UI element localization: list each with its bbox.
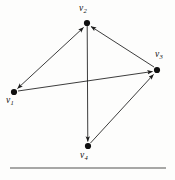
edge-v1-v3: [18, 72, 153, 92]
vertex-dot-v1: [11, 89, 17, 95]
vertex-label-v1: v1: [6, 96, 14, 106]
vertex-label-v4: v4: [80, 151, 88, 161]
edge-v3-v2: [91, 27, 154, 68]
vertex-dot-v4: [85, 143, 91, 149]
edge-v2-v4: [87, 26, 88, 142]
edge-v1-v2: [18, 28, 84, 89]
graph-figure: v1 v2 v3 v4: [0, 0, 175, 180]
edge-v4-v3: [91, 75, 154, 144]
vertex-dot-v2: [84, 20, 90, 26]
vertex-dot-v3: [154, 67, 160, 73]
graph-edges: [18, 26, 155, 143]
graph-vertices: [11, 20, 160, 149]
vertex-label-v3: v3: [155, 50, 163, 60]
vertex-label-v2: v2: [79, 4, 87, 14]
